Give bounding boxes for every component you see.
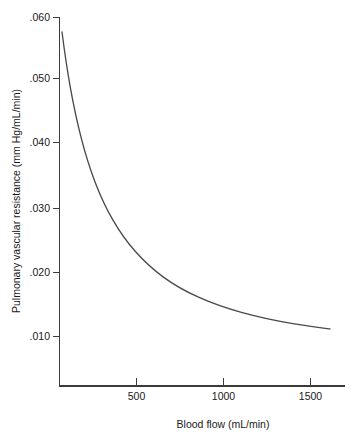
resistance-curve [62,32,330,329]
y-tick-label-020: .020 [30,266,51,278]
x-axis-ticks [137,378,311,386]
x-tick-label-500: 500 [128,390,146,402]
y-tick-label-010: .010 [30,330,51,342]
x-axis-tick-labels: 500 1000 1500 [128,390,323,402]
x-axis-title: Blood flow (mL/min) [177,418,270,430]
y-tick-label-050: .050 [30,72,51,84]
y-tick-label-060: .060 [30,11,51,23]
x-tick-label-1000: 1000 [212,390,236,402]
y-tick-label-040: .040 [30,136,51,148]
y-axis-title: Pulmonary vascular resistance (mm Hg/mL/… [10,89,22,313]
y-axis-tick-labels: .060 .050 .040 .030 .020 .010 [30,11,51,342]
chart-canvas: .060 .050 .040 .030 .020 .010 500 1000 1… [0,0,352,442]
y-tick-label-030: .030 [30,202,51,214]
x-tick-label-1500: 1500 [299,390,323,402]
chart-figure: .060 .050 .040 .030 .020 .010 500 1000 1… [0,0,352,442]
